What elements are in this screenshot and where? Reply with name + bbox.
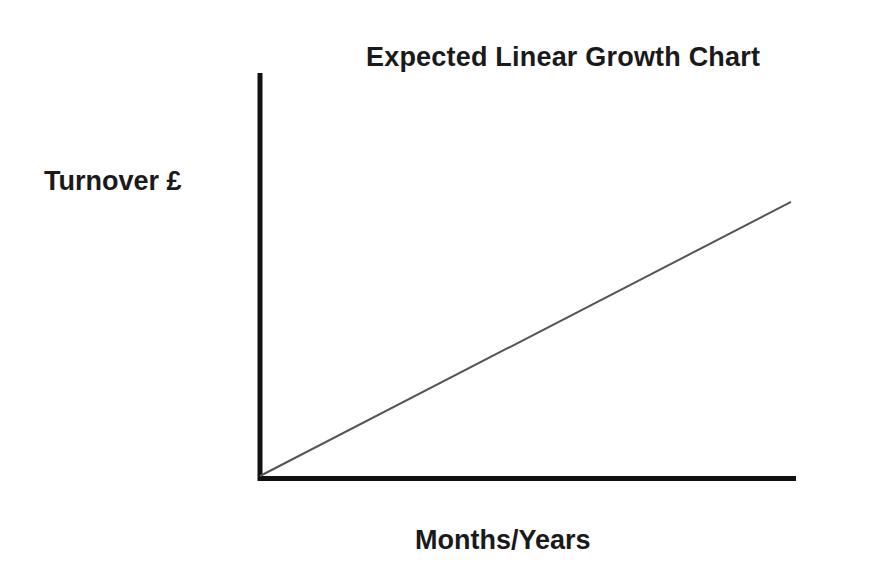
growth-line bbox=[260, 202, 791, 476]
plot-area bbox=[0, 0, 872, 587]
